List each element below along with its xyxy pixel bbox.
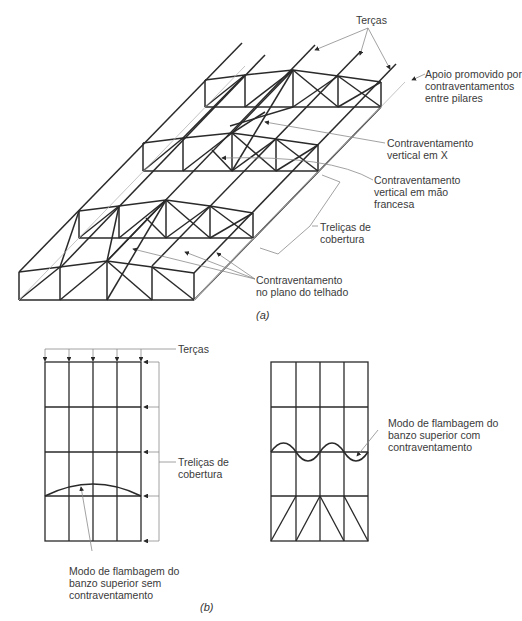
leader-lines-b-left [45,349,176,551]
roof-3d-structure [19,43,396,300]
label-contrav-mao-francesa: Contraventamento vertical em mão frances… [374,174,460,210]
label-trelicas-a: Treliças de cobertura [320,221,371,245]
label-tercas-a: Terças [356,14,387,26]
plan-with-bracing [271,362,368,541]
plan-without-bracing [45,362,141,541]
label-contrav-x: Contraventamento vertical em X [387,137,473,161]
label-trelicas-b: Treliças de cobertura [178,456,229,480]
caption-a: (a) [256,309,269,321]
label-apoio: Apoio promovido por contraventamentos en… [425,68,522,104]
label-tercas-b: Terças [178,343,209,355]
label-flambagem-com: Modo de flambagem do banzo superior com … [388,417,498,453]
label-contrav-telhado: Contraventamento no plano do telhado [256,274,348,298]
caption-b: (b) [200,601,213,613]
label-flambagem-sem: Modo de flambagem do banzo superior sem … [69,565,179,601]
